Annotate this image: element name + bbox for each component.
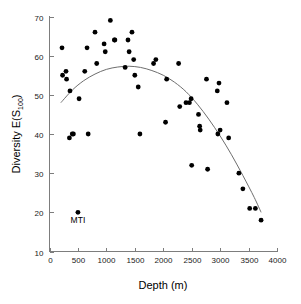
data-point — [189, 96, 194, 101]
data-point — [127, 49, 132, 54]
data-point — [136, 85, 141, 90]
data-point — [77, 96, 82, 101]
y-axis-title-subscript: 100 — [17, 98, 24, 110]
x-axis-tick-labels: 05001000150020002500300035004000 — [48, 256, 287, 265]
data-point — [103, 49, 108, 54]
data-point — [259, 218, 264, 223]
chart-figure: 05001000150020002500300035004000 1020304… — [0, 0, 301, 304]
data-point — [204, 77, 209, 82]
data-point — [93, 30, 98, 35]
x-tick-label: 3000 — [212, 256, 230, 265]
y-tick-label: 20 — [35, 209, 44, 218]
data-point — [218, 128, 223, 133]
y-tick-label: 60 — [35, 53, 44, 62]
data-point — [60, 45, 65, 50]
y-tick-label: 30 — [35, 170, 44, 179]
x-tick-label: 2000 — [155, 256, 173, 265]
data-point — [217, 81, 222, 86]
y-axis-title-main: Diversity E(S — [10, 110, 22, 174]
x-tick-label: 1000 — [98, 256, 116, 265]
data-point — [130, 30, 135, 35]
data-point — [247, 206, 252, 211]
x-axis-title: Depth (m) — [139, 279, 188, 291]
data-point — [164, 77, 169, 82]
data-point — [189, 163, 194, 168]
data-point — [85, 45, 90, 50]
data-point — [131, 57, 136, 62]
data-point — [163, 120, 168, 125]
data-point — [205, 167, 210, 172]
data-point — [225, 100, 230, 105]
data-point — [64, 69, 69, 74]
x-tick-label: 500 — [72, 256, 86, 265]
data-point — [132, 73, 137, 78]
data-point — [240, 186, 245, 191]
data-point — [113, 38, 118, 43]
x-tick-label: 0 — [48, 256, 53, 265]
data-point — [215, 89, 220, 94]
annotation-label: MTI — [71, 215, 86, 225]
data-point — [253, 206, 258, 211]
data-point — [82, 69, 87, 74]
x-tick-label: 4000 — [269, 256, 287, 265]
data-point — [126, 38, 131, 43]
data-point — [60, 73, 65, 78]
data-point — [67, 136, 72, 141]
data-point — [76, 210, 81, 215]
data-point — [196, 112, 201, 117]
data-point — [68, 89, 73, 94]
data-point — [177, 104, 182, 109]
y-tick-label: 40 — [35, 131, 44, 140]
data-point — [153, 57, 158, 62]
data-point — [71, 132, 76, 137]
data-point — [94, 61, 99, 66]
data-point — [64, 77, 69, 82]
data-point — [226, 136, 231, 141]
data-point — [198, 128, 203, 133]
data-point — [236, 171, 241, 176]
y-tick-label: 70 — [35, 14, 44, 23]
x-tick-label: 2500 — [184, 256, 202, 265]
data-point — [86, 132, 91, 137]
data-point — [102, 42, 107, 47]
x-tick-label: 1500 — [127, 256, 145, 265]
data-point — [138, 132, 143, 137]
y-tick-label: 10 — [35, 249, 44, 258]
data-point — [176, 61, 181, 66]
data-point — [108, 18, 113, 23]
data-point — [123, 65, 128, 70]
chart-annotations: MTI — [71, 215, 86, 225]
scatter-plot-svg: 05001000150020002500300035004000 1020304… — [0, 0, 301, 304]
y-axis-title-tail: ) — [10, 95, 22, 99]
y-tick-label: 50 — [35, 92, 44, 101]
x-tick-label: 3500 — [241, 256, 259, 265]
